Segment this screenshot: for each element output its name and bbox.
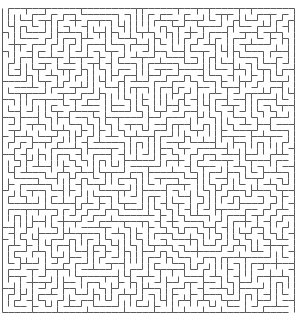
maze-grid xyxy=(0,0,298,319)
